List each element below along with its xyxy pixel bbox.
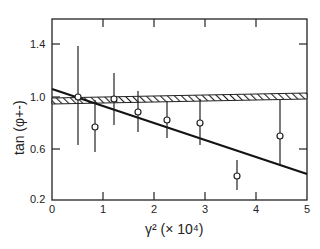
x-tick-label: 5 (304, 203, 310, 215)
x-tick-label: 0 (49, 203, 55, 215)
x-tick-label: 2 (151, 203, 157, 215)
x-tick-label: 1 (100, 203, 106, 215)
y-axis-label: tan (φ+-) (11, 100, 27, 155)
chart: 1.4 1.0 0.6 0.2 0 1 2 3 4 5 γ² (× 10⁴) t… (0, 0, 320, 249)
x-axis (103, 19, 256, 200)
y-tick-label: 0.2 (30, 193, 45, 205)
plot-frame (52, 19, 307, 200)
x-tick-label: 3 (202, 203, 208, 215)
y-tick-label: 1.0 (30, 91, 45, 103)
x-tick-label: 4 (253, 203, 259, 215)
data-points (75, 46, 283, 190)
y-tick-label: 0.6 (30, 143, 45, 155)
x-axis-label: γ² (× 10⁴) (145, 221, 204, 237)
y-tick-label: 1.4 (30, 38, 45, 50)
